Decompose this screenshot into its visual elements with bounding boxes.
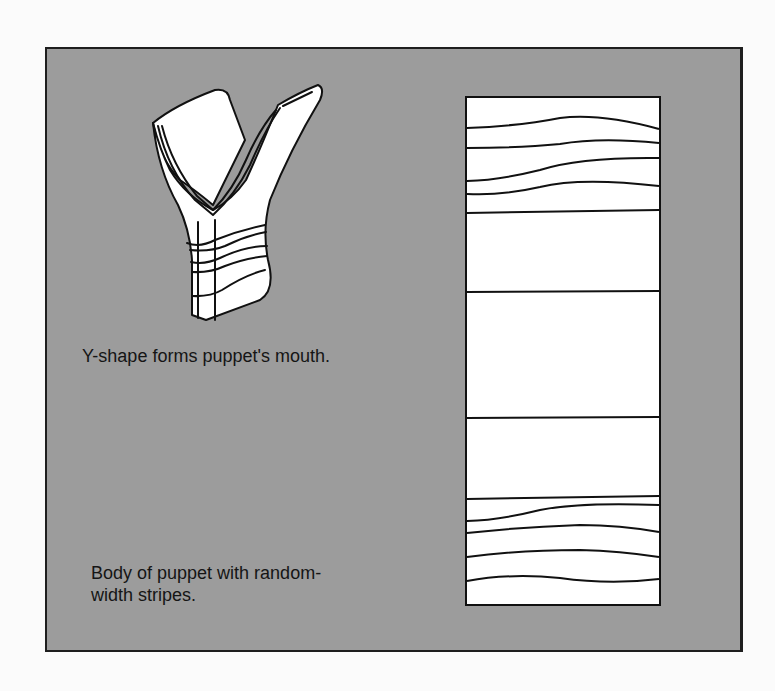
- body-caption: Body of puppet with random- width stripe…: [91, 562, 321, 606]
- striped-body-illustration: [466, 97, 660, 605]
- y-shape-mouth-illustration: [153, 85, 322, 320]
- body-caption-line2: width stripes.: [91, 584, 321, 606]
- mouth-caption: Y-shape forms puppet's mouth.: [82, 345, 330, 367]
- body-caption-line1: Body of puppet with random-: [91, 562, 321, 584]
